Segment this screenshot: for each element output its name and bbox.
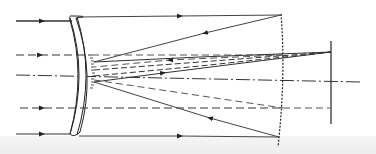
secondary-mirror bbox=[90, 58, 95, 88]
marginal-rays bbox=[78, 15, 281, 137]
optical-diagram bbox=[0, 0, 376, 154]
paraxial-rays bbox=[92, 55, 330, 108]
focused-rays bbox=[94, 52, 331, 82]
optical-axis bbox=[16, 75, 360, 82]
